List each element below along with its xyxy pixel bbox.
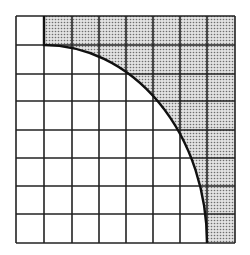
quarter-circle-grid-diagram — [0, 0, 250, 255]
